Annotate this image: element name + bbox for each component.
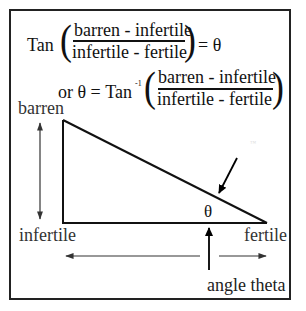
hypotenuse-pointer-arrow [219,158,237,193]
right-triangle [63,120,267,223]
triangle-diagram [0,0,306,311]
